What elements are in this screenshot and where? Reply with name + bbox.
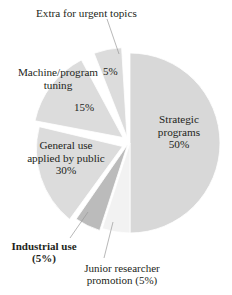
slice-label-general-use-applied-by-public: General use applied by public 30% [10, 139, 122, 177]
slice-label-industrial-line1: Industrial use [4, 240, 84, 252]
slice-value-strategic-text: 50% [146, 138, 212, 151]
slice-label-general-line1: General use [10, 139, 122, 152]
slice-label-general-line2: applied by public [10, 152, 122, 165]
slice-label-extra-for-urgent-topics: Extra for urgent topics [36, 7, 137, 20]
slice-label-junior-researcher-promotion: Junior researcher promotion (5%) [66, 262, 178, 287]
slice-label-machine-line2: tuning [6, 79, 110, 92]
slice-label-machine-line1: Machine/program [6, 66, 110, 79]
slice-label-industrial-use: Industrial use (5%) [4, 240, 84, 265]
slice-label-strategic-programs: Strategic programs 50% [146, 113, 212, 151]
slice-value-machine-program-tuning: 15% [74, 101, 94, 113]
slice-value-machine-text: 15% [74, 101, 94, 113]
slice-label-junior-line1: Junior researcher [66, 262, 178, 274]
slice-label-machine-program-tuning: Machine/program tuning [6, 66, 110, 91]
slice-label-strategic-line1: Strategic [146, 113, 212, 126]
slice-label-extra-text: Extra for urgent topics [36, 7, 137, 19]
slice-label-junior-line2: promotion (5%) [66, 274, 178, 286]
pie-chart-figure: Extra for urgent topics 5% Machine/progr… [0, 0, 232, 295]
slice-value-general-text: 30% [10, 164, 122, 177]
slice-label-strategic-line2: programs [146, 126, 212, 139]
